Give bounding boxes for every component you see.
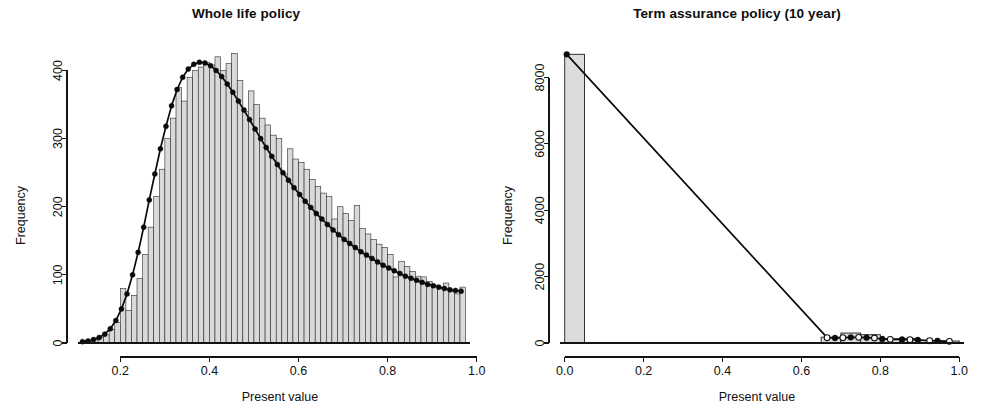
data-point-marker	[347, 241, 352, 246]
data-point-marker	[431, 283, 436, 288]
y-axis-tick-label: 200	[51, 196, 65, 217]
panel-term-assurance-policy: Term assurance policy (10 year) Frequenc…	[492, 0, 985, 418]
data-point-marker	[175, 87, 180, 92]
histogram-bar	[371, 239, 377, 343]
data-point-marker	[381, 263, 386, 268]
histogram-bar	[415, 276, 421, 343]
data-point-marker	[258, 136, 263, 141]
density-curve	[567, 54, 950, 341]
histogram-bar	[454, 294, 460, 343]
figure-root: Whole life policy Frequency Present valu…	[0, 0, 985, 418]
histogram-bar	[120, 288, 126, 343]
data-point-marker	[264, 145, 269, 150]
histogram-bar	[137, 278, 143, 343]
x-axis-tick-label: 0.6	[290, 364, 307, 378]
histogram-bar	[360, 229, 366, 343]
histogram-bar	[332, 219, 338, 343]
histogram-bar	[209, 65, 215, 343]
y-axis-tick-label: 0	[533, 339, 547, 346]
data-point-marker	[275, 162, 280, 167]
y-axis-tick-label: 4000	[533, 196, 547, 224]
data-point-marker	[872, 335, 878, 341]
data-point-marker	[364, 253, 369, 258]
data-point-marker	[915, 337, 921, 343]
histogram-bar	[176, 87, 182, 343]
histogram-bar	[565, 54, 585, 343]
histogram-bar	[182, 101, 188, 343]
histogram-bar	[143, 254, 149, 343]
data-point-marker	[113, 318, 118, 323]
data-point-marker	[386, 266, 391, 271]
histogram-bar	[260, 118, 266, 343]
data-point-marker	[453, 288, 458, 293]
histogram-bar	[427, 282, 433, 343]
data-point-marker	[325, 222, 330, 227]
data-point-marker	[314, 211, 319, 216]
data-point-marker	[899, 337, 905, 343]
panel-whole-life-policy: Whole life policy Frequency Present valu…	[0, 0, 492, 418]
histogram-bar	[243, 111, 249, 343]
y-axis-tick-label: 400	[51, 60, 65, 81]
data-point-marker	[848, 334, 854, 340]
histogram-bar	[193, 70, 199, 343]
data-point-marker	[152, 172, 157, 177]
y-axis-tick-label: 8000	[533, 64, 547, 92]
histogram-bar	[198, 67, 204, 343]
data-point-marker	[191, 62, 196, 67]
density-curve-group	[564, 51, 952, 344]
x-axis-tick-label: 0.8	[872, 364, 889, 378]
histogram-bar	[393, 277, 399, 343]
histogram-bar	[343, 214, 349, 343]
x-axis-tick-label: 0.2	[112, 364, 129, 378]
data-point-marker	[136, 250, 141, 255]
data-point-marker	[230, 90, 235, 95]
y-axis-tick-label: 100	[51, 264, 65, 285]
histogram-bar	[310, 179, 316, 343]
data-point-marker	[91, 337, 96, 342]
data-point-marker	[102, 332, 107, 337]
data-point-marker	[824, 335, 830, 341]
data-point-marker	[308, 205, 313, 210]
x-axis-tick-label: 0.8	[379, 364, 396, 378]
histogram-bar	[221, 70, 227, 343]
histogram-bar	[349, 220, 355, 343]
data-point-marker	[436, 285, 441, 290]
data-point-marker	[375, 259, 380, 264]
data-point-marker	[280, 170, 285, 175]
bars-group	[565, 54, 960, 343]
histogram-bar	[299, 162, 305, 343]
histogram-bar	[321, 193, 327, 343]
data-point-marker	[420, 280, 425, 285]
data-point-marker	[408, 276, 413, 281]
y-axis-tick-label: 6000	[533, 130, 547, 158]
data-point-marker	[353, 245, 358, 250]
x-axis-tick-label: 0.6	[793, 364, 810, 378]
data-point-marker	[236, 99, 241, 104]
data-point-marker	[303, 199, 308, 204]
data-point-marker	[253, 127, 258, 132]
x-axis-tick-label: 0.4	[714, 364, 731, 378]
data-point-marker	[414, 278, 419, 283]
x-axis-tick-label: 1.0	[951, 364, 968, 378]
data-point-marker	[370, 256, 375, 261]
histogram-bar	[237, 81, 243, 343]
data-point-marker	[247, 117, 252, 122]
histogram-bar	[460, 287, 466, 343]
x-axis-tick-label: 1.0	[468, 364, 485, 378]
histogram-bar	[438, 288, 444, 343]
histogram-bar	[315, 186, 321, 343]
x-axis-tick-label: 0.2	[635, 364, 652, 378]
data-point-marker	[202, 60, 207, 65]
y-axis-tick-label: 2000	[533, 263, 547, 291]
data-point-marker	[163, 124, 168, 129]
data-point-marker	[141, 225, 146, 230]
x-axis-tick-label: 0.0	[556, 364, 573, 378]
data-point-marker	[336, 232, 341, 237]
data-point-marker	[907, 337, 913, 343]
data-point-marker	[158, 146, 163, 151]
x-axis-tick-label: 0.4	[201, 364, 218, 378]
data-point-marker	[186, 67, 191, 72]
data-point-marker	[342, 237, 347, 242]
histogram-bar	[126, 310, 132, 343]
data-point-marker	[397, 271, 402, 276]
